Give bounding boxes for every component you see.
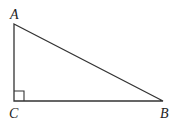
vertex-label-c: C xyxy=(9,106,19,121)
vertex-label-b: B xyxy=(160,106,169,121)
vertex-label-a: A xyxy=(9,7,19,22)
triangle-diagram: A C B xyxy=(0,0,178,124)
triangle-abc xyxy=(14,24,163,101)
right-angle-marker xyxy=(14,91,24,101)
